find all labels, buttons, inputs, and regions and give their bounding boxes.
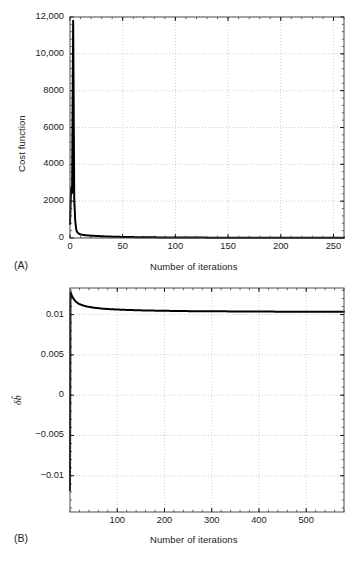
x-tick-label: 200 (144, 515, 184, 525)
axes-box (70, 288, 344, 512)
minor-ticks (70, 288, 344, 512)
y-tick-label: −0.01 (0, 470, 64, 480)
data-series-delta-b-hat (70, 292, 344, 490)
y-tick-label: 6000 (0, 122, 64, 132)
x-tick-label: 500 (286, 515, 326, 525)
y-tick-label: 2000 (0, 195, 64, 205)
x-tick-label: 300 (192, 515, 232, 525)
x-tick-label: 150 (208, 241, 248, 251)
x-tick-label: 250 (313, 241, 353, 251)
y-tick-label: 4000 (0, 158, 64, 168)
x-tick-label: 50 (103, 241, 143, 251)
y-tick-label: 8000 (0, 85, 64, 95)
y-tick-label: 10,000 (0, 48, 64, 58)
major-ticks (70, 17, 344, 238)
panel-a-x-axis-label: Number of iterations (150, 261, 238, 272)
data-series-cost (70, 21, 344, 238)
x-tick-label: 0 (50, 241, 90, 251)
panel-b-x-axis-label: Number of iterations (150, 534, 238, 545)
panel-b: δb̂ Number of iterations (B) 10020030040… (0, 280, 361, 561)
y-tick-label: 0.005 (0, 349, 64, 359)
y-tick-label: 12,000 (0, 11, 64, 21)
caption-fragment (6, 551, 356, 559)
x-tick-label: 400 (239, 515, 279, 525)
x-tick-label: 100 (97, 515, 137, 525)
axes-box (70, 17, 344, 238)
y-tick-label: −0.005 (0, 429, 64, 439)
y-tick-label: 0 (0, 232, 64, 242)
y-tick-label: 0 (0, 389, 64, 399)
minor-ticks (70, 17, 344, 238)
panel-b-tag: (B) (14, 532, 28, 544)
figure-container: Cost function Number of iterations (A) 0… (0, 0, 361, 561)
x-tick-label: 200 (261, 241, 301, 251)
major-ticks (70, 288, 344, 512)
panel-a: Cost function Number of iterations (A) 0… (0, 0, 361, 280)
panel-a-tag: (A) (14, 259, 28, 271)
grid-lines (70, 17, 344, 238)
x-tick-label: 100 (155, 241, 195, 251)
grid-lines (70, 288, 344, 512)
y-tick-label: 0.01 (0, 309, 64, 319)
